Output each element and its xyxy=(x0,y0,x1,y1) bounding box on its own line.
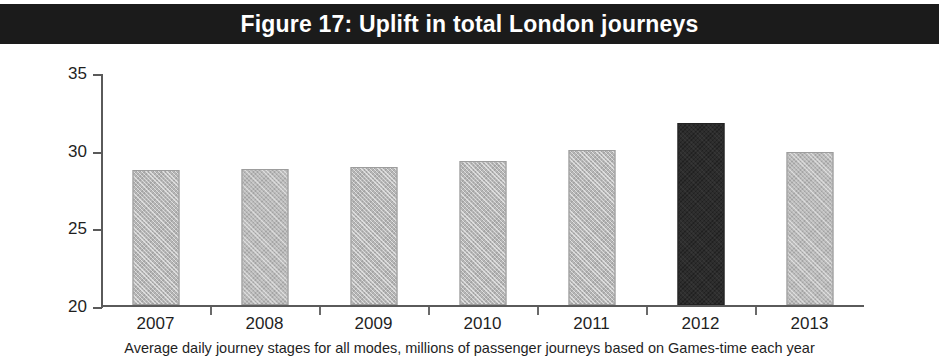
chart-area: 20253035 2007200820092010201120122013 xyxy=(0,44,939,364)
plot-area: 20253035 2007200820092010201120122013 xyxy=(101,74,864,307)
y-axis-label: 35 xyxy=(68,64,87,84)
y-axis-label: 20 xyxy=(68,297,87,317)
bar-group-2011: 2011 xyxy=(537,73,646,305)
bar-2013 xyxy=(786,152,833,305)
bar-2007 xyxy=(132,170,179,305)
x-axis-line xyxy=(101,305,864,307)
bar-2010 xyxy=(459,161,506,305)
x-axis-tick xyxy=(755,307,757,315)
y-axis-label: 30 xyxy=(68,142,87,162)
y-tick-mark xyxy=(93,307,102,309)
bar-highlight-2012 xyxy=(677,123,724,306)
x-axis-tick xyxy=(537,307,539,315)
y-axis-label: 25 xyxy=(68,219,87,239)
bar-group-2009: 2009 xyxy=(319,73,428,305)
x-axis-label-2009: 2009 xyxy=(355,314,393,334)
bar-2009 xyxy=(350,167,397,305)
figure-title-band: Figure 17: Uplift in total London journe… xyxy=(0,4,939,44)
x-axis-label-2013: 2013 xyxy=(791,314,829,334)
bar-group-2010: 2010 xyxy=(428,73,537,305)
bar-group-2013: 2013 xyxy=(755,73,864,305)
x-axis-label-2008: 2008 xyxy=(246,314,284,334)
x-axis-tick xyxy=(646,307,648,315)
bar-group-2012: 2012 xyxy=(646,73,755,305)
bar-series: 2007200820092010201120122013 xyxy=(101,73,864,305)
bar-2008 xyxy=(241,169,288,305)
bar-2011 xyxy=(568,150,615,305)
x-axis-label-2007: 2007 xyxy=(137,314,175,334)
x-axis-tick xyxy=(210,307,212,315)
page-title: Figure 17: Uplift in total London journe… xyxy=(240,13,698,36)
figure-caption: Average daily journey stages for all mod… xyxy=(0,340,939,356)
x-axis-tick xyxy=(428,307,430,315)
x-axis-label-2010: 2010 xyxy=(464,314,502,334)
x-axis-label-2011: 2011 xyxy=(573,314,610,334)
bar-group-2007: 2007 xyxy=(101,73,210,305)
figure-17-chart: Figure 17: Uplift in total London journe… xyxy=(0,0,939,364)
x-axis-tick xyxy=(319,307,321,315)
bar-group-2008: 2008 xyxy=(210,73,319,305)
x-axis-label-2012: 2012 xyxy=(682,314,720,334)
